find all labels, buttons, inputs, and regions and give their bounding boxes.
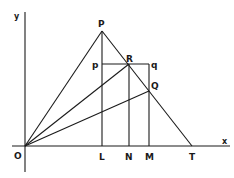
label-N: N (125, 152, 133, 162)
segment-OR (25, 64, 129, 146)
x-axis-label: x (222, 137, 228, 146)
segment-PT (102, 31, 192, 146)
label-q: q (151, 60, 157, 70)
geometry-diagram: y x O P p R q Q L N M T (0, 0, 234, 178)
label-M: M (145, 152, 154, 162)
label-P: P (98, 19, 105, 29)
y-axis-label: y (14, 12, 20, 21)
label-L: L (99, 152, 105, 162)
label-O: O (14, 151, 22, 161)
label-R: R (126, 54, 133, 64)
label-p: p (92, 60, 99, 70)
label-Q: Q (151, 81, 159, 91)
label-T: T (189, 152, 196, 162)
